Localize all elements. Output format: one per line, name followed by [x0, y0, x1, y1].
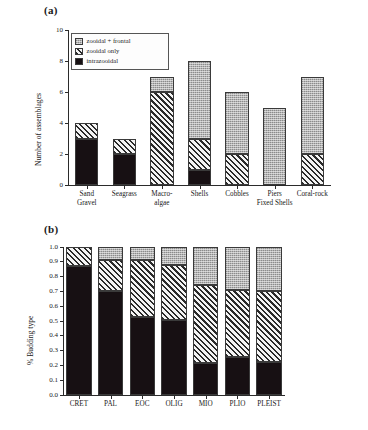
legend-item: zooidal only: [75, 47, 165, 56]
y-tick-label: 10: [38, 27, 63, 34]
y-tick-label: 0.1: [33, 377, 58, 384]
x-tick: [124, 186, 125, 189]
bar-segment-intrazooidal: [113, 154, 136, 185]
y-tick-label: 8: [38, 58, 63, 65]
legend-item: zooidal + frontal: [75, 37, 165, 46]
bar-segment-intrazooidal: [256, 362, 281, 395]
y-tick: [60, 380, 64, 381]
x-tick: [162, 186, 163, 189]
legend-label: intrazooidal: [87, 58, 119, 65]
bar-piers-fixed-shells: [263, 30, 286, 185]
x-tick: [312, 186, 313, 189]
y-tick: [60, 247, 64, 248]
legend-swatch-icon: [75, 58, 83, 66]
bar-segment-frontal: [193, 247, 218, 285]
x-tick: [200, 186, 201, 189]
x-tick: [111, 396, 112, 399]
bar-cret: [66, 247, 91, 395]
x-tick: [237, 186, 238, 189]
bar-segment-zooidal+frontal: [150, 77, 173, 93]
x-tick-label: Coral-rock: [271, 190, 354, 207]
bar-olig: [161, 247, 186, 395]
bar-coral-rock: [301, 30, 324, 185]
y-tick: [60, 395, 64, 396]
legend-swatch-icon: [75, 38, 83, 46]
bar-pal: [98, 247, 123, 395]
bar-segment-frontal: [225, 247, 250, 290]
x-tick-label: PLEIST: [234, 400, 304, 409]
bar-segment-zooidal+frontal: [188, 61, 211, 139]
x-tick: [237, 396, 238, 399]
bar-segment-zooidalonly: [150, 92, 173, 185]
y-axis-line: [68, 30, 69, 185]
x-tick-label-line: Coral-rock: [271, 190, 354, 199]
bar-segment-zooidalonly: [225, 154, 248, 185]
y-tick-label: 0.9: [33, 258, 58, 265]
y-tick: [60, 276, 64, 277]
bar-segment-intrazooidal: [130, 317, 155, 395]
bar-segment-zooidal+frontal: [301, 77, 324, 155]
y-tick: [60, 291, 64, 292]
bar-shells: [188, 30, 211, 185]
y-tick: [60, 335, 64, 336]
bar-segment-zooidal: [130, 260, 155, 316]
legend-item: intrazooidal: [75, 57, 165, 66]
figure-caption: [0, 421, 368, 430]
panel-a: (a) 0246810SandGravelSeagrass Macro-alga…: [0, 0, 368, 215]
legend-label: zooidal only: [87, 48, 120, 55]
y-tick: [60, 321, 64, 322]
bar-segment-zooidal: [225, 290, 250, 357]
y-tick-label: 0: [38, 182, 63, 189]
y-tick: [65, 185, 69, 186]
legend-a: zooidal + frontalzooidal onlyintrazooida…: [71, 33, 169, 70]
plot-area-b: 0.00.10.20.30.40.50.60.70.80.91.0CRETPAL…: [63, 247, 285, 395]
y-tick-label: 0.4: [33, 332, 58, 339]
legend-label: zooidal + frontal: [87, 38, 131, 45]
y-tick: [65, 123, 69, 124]
x-tick-label-line: [271, 199, 354, 208]
bar-pleist: [256, 247, 281, 395]
y-tick: [65, 61, 69, 62]
x-tick: [269, 396, 270, 399]
bar-eoc: [130, 247, 155, 395]
bar-segment-zooidalonly: [301, 154, 324, 185]
y-tick: [60, 365, 64, 366]
x-tick: [79, 396, 80, 399]
bar-segment-intrazooidal: [188, 170, 211, 186]
bar-segment-zooidal: [193, 285, 218, 363]
y-axis-label-a: Number of assemblages: [34, 93, 43, 166]
y-tick: [65, 30, 69, 31]
y-tick: [60, 306, 64, 307]
y-tick-label: 0.6: [33, 303, 58, 310]
y-tick-label: 0.0: [33, 392, 58, 399]
bar-segment-zooidal+frontal: [263, 108, 286, 186]
bar-mio: [193, 247, 218, 395]
bar-segment-zooidal+frontal: [225, 92, 248, 154]
bar-segment-intrazooidal: [161, 320, 186, 395]
y-tick: [60, 350, 64, 351]
y-tick-label: 0.2: [33, 362, 58, 369]
bar-cobbles: [225, 30, 248, 185]
bar-segment-zooidalonly: [75, 123, 98, 139]
bar-segment-intrazooidal: [66, 266, 91, 395]
panel-b-label: (b): [44, 223, 58, 235]
y-tick: [60, 261, 64, 262]
y-tick-label: 0.7: [33, 288, 58, 295]
bar-plio: [225, 247, 250, 395]
panel-b: (b) 0.00.10.20.30.40.50.60.70.80.91.0CRE…: [0, 215, 368, 430]
panel-a-label: (a): [44, 4, 58, 16]
bar-segment-zooidal: [98, 260, 123, 291]
x-tick: [142, 396, 143, 399]
bar-segment-zooidal: [66, 247, 91, 266]
bar-segment-zooidal: [256, 291, 281, 362]
bar-segment-zooidalonly: [188, 139, 211, 170]
bar-segment-intrazooidal: [225, 357, 250, 395]
bar-segment-frontal: [161, 247, 186, 265]
y-tick-label: 1.0: [33, 244, 58, 251]
bar-segment-zooidal: [161, 265, 186, 320]
x-tick: [174, 396, 175, 399]
x-tick: [275, 186, 276, 189]
x-tick: [87, 186, 88, 189]
y-tick-label: 0.8: [33, 273, 58, 280]
y-tick: [65, 92, 69, 93]
